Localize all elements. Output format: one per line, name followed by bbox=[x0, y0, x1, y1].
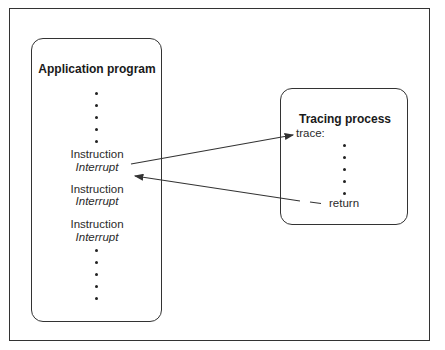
arrows-layer bbox=[0, 0, 445, 350]
interrupt-arrow bbox=[131, 135, 293, 164]
return-arrow-tail bbox=[310, 202, 321, 204]
return-arrow bbox=[135, 176, 300, 201]
